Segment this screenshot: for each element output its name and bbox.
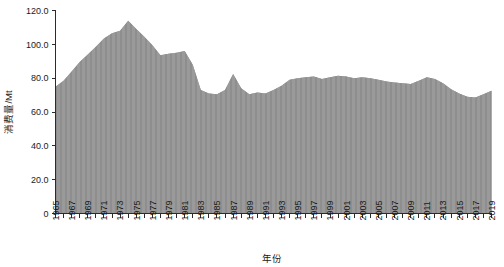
x-axis-tick-label: 2007 <box>390 200 400 220</box>
y-axis-tick-label: 0 <box>43 209 48 219</box>
x-axis-tick-label: 1973 <box>115 200 125 220</box>
series-area-pattern <box>56 21 492 214</box>
x-axis-tick-label: 2013 <box>438 200 448 220</box>
x-axis-tick-label: 1975 <box>132 200 142 220</box>
x-axis-tick-label: 2011 <box>422 201 432 220</box>
x-axis-tick-label: 2015 <box>455 200 465 220</box>
x-axis-tick-label: 1993 <box>277 200 287 220</box>
plot-area <box>56 21 492 214</box>
x-axis-tick-label: 1987 <box>229 200 239 220</box>
x-axis-tick-label: 1983 <box>196 200 206 220</box>
area-chart: 020.040.060.080.0100.0120.0 196519671969… <box>0 0 504 267</box>
x-axis-tick-label: 2017 <box>471 200 481 220</box>
x-axis-tick-label: 1971 <box>99 200 109 220</box>
x-axis-tick-label: 1977 <box>148 200 158 220</box>
x-axis-tick-label: 1979 <box>164 200 174 220</box>
y-axis-title: 消费量/Mt <box>3 90 14 134</box>
y-axis: 020.040.060.080.0100.0120.0 <box>26 6 56 219</box>
x-axis-title: 年份 <box>262 253 282 264</box>
y-axis-tick-label: 80.0 <box>31 73 49 83</box>
y-axis-tick-label: 20.0 <box>31 175 49 185</box>
x-axis-tick-label: 1995 <box>293 200 303 220</box>
x-axis-tick-label: 1997 <box>309 200 319 220</box>
x-axis-tick-label: 2003 <box>358 200 368 220</box>
x-axis-tick-label: 2009 <box>406 200 416 220</box>
x-axis-tick-label: 1989 <box>245 200 255 220</box>
x-axis-tick-label: 1999 <box>325 200 335 220</box>
x-axis-tick-label: 2005 <box>374 200 384 220</box>
x-axis-tick-label: 2019 <box>487 200 497 220</box>
x-axis-tick-label: 1981 <box>180 200 190 220</box>
x-axis-tick-label: 1967 <box>67 200 77 220</box>
y-axis-tick-label: 100.0 <box>26 40 49 50</box>
y-axis-tick-label: 60.0 <box>31 107 49 117</box>
x-axis-tick-label: 2001 <box>342 200 352 220</box>
x-axis-tick-label: 1991 <box>261 200 271 220</box>
y-axis-tick-label: 40.0 <box>31 141 49 151</box>
chart-container: 020.040.060.080.0100.0120.0 196519671969… <box>0 0 504 267</box>
x-axis-tick-label: 1965 <box>51 200 61 220</box>
x-axis-tick-label: 1969 <box>83 200 93 220</box>
y-axis-tick-label: 120.0 <box>26 6 49 16</box>
x-axis-tick-label: 1985 <box>212 200 222 220</box>
